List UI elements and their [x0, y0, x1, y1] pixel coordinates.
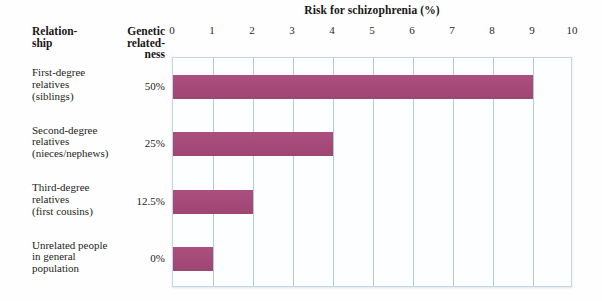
x-tick-label-3: 3 [280, 24, 304, 36]
bar-row-2 [173, 132, 333, 156]
column-header-relatedness-line-3: ness [86, 49, 165, 61]
x-tick-label-2: 2 [240, 24, 264, 36]
row-label-2-line-3: (nieces/nephews) [32, 148, 124, 160]
x-tick-label-4: 4 [320, 24, 344, 36]
plot-area [172, 57, 572, 287]
gridline-9 [533, 58, 534, 286]
column-header-relatedness-line-1: Genetic [86, 26, 165, 38]
column-header-genetic-relatedness: Genetic related- ness [86, 26, 165, 61]
row-label-1-line-3: (siblings) [32, 91, 124, 103]
genetic-relatedness-value-3: 12.5% [86, 195, 165, 207]
bar-row-3 [173, 190, 253, 214]
x-tick-label-9: 9 [520, 24, 544, 36]
schizophrenia-risk-figure: Risk for schizophrenia (%) Relation- shi… [0, 0, 602, 301]
genetic-relatedness-value-2: 25% [86, 137, 165, 149]
bar-row-1 [173, 75, 533, 99]
x-tick-label-7: 7 [440, 24, 464, 36]
genetic-relatedness-value-4: 0% [86, 252, 165, 264]
x-tick-label-8: 8 [480, 24, 504, 36]
x-tick-label-1: 1 [200, 24, 224, 36]
chart-title: Risk for schizophrenia (%) [172, 4, 572, 16]
genetic-relatedness-value-1: 50% [86, 80, 165, 92]
x-tick-label-10: 10 [560, 24, 584, 36]
row-label-4-line-3: population [32, 263, 124, 275]
x-tick-label-5: 5 [360, 24, 384, 36]
row-label-3-line-3: (first cousins) [32, 206, 124, 218]
bar-row-4 [173, 247, 213, 271]
x-tick-label-6: 6 [400, 24, 424, 36]
x-tick-label-0: 0 [160, 24, 184, 36]
